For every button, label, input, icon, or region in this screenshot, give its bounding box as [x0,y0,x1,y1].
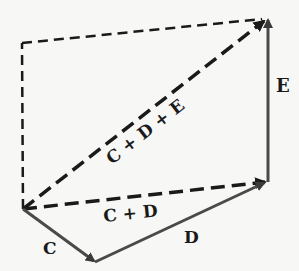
label-d: D [184,227,199,247]
vector-c [23,209,94,261]
label-c-plus-d-plus-e: C + D + E [102,95,188,168]
label-e: E [276,75,290,96]
construction-line-left [22,43,23,209]
label-c-plus-d: C + D [102,200,158,226]
vector-c-plus-d-plus-e [23,21,264,209]
vector-diagram: E C D C + D C + D + E [0,0,299,271]
construction-line-top [22,19,262,43]
label-c: C [43,238,57,258]
diagram-canvas: E C D C + D C + D + E [0,0,299,271]
